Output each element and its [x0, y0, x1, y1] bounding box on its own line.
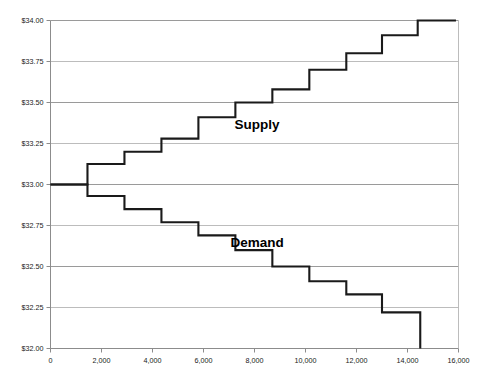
x-tick-label: 8,000 [246, 356, 264, 365]
x-axis-ticks-group: 02,0004,0006,0008,00010,00012,00014,0001… [49, 349, 470, 365]
x-tick-label: 16,000 [448, 356, 470, 365]
x-tick-label: 2,000 [93, 356, 111, 365]
x-tick-label: 10,000 [295, 356, 317, 365]
y-tick-label: $33.50 [22, 98, 44, 107]
y-tick-label: $32.75 [22, 221, 44, 230]
x-tick-label: 14,000 [397, 356, 419, 365]
y-tick-label: $32.25 [22, 303, 44, 312]
gridlines-group [51, 21, 459, 349]
series-label-demand: Demand [230, 235, 283, 250]
supply-demand-chart: $32.00$32.25$32.50$32.75$33.00$33.25$33.… [0, 0, 481, 389]
y-tick-label: $34.00 [22, 16, 44, 25]
x-tick-label: 4,000 [144, 356, 162, 365]
y-tick-label: $33.00 [22, 180, 44, 189]
x-tick-label: 6,000 [195, 356, 213, 365]
y-tick-label: $33.25 [22, 139, 44, 148]
y-tick-label: $33.75 [22, 57, 44, 66]
x-tick-label: 0 [49, 356, 53, 365]
y-tick-label: $32.50 [22, 262, 44, 271]
y-tick-label: $32.00 [22, 344, 44, 353]
series-annotations-group: SupplyDemand [230, 117, 283, 250]
y-axis-ticks-group: $32.00$32.25$32.50$32.75$33.00$33.25$33.… [22, 16, 51, 353]
series-label-supply: Supply [235, 117, 280, 132]
x-tick-label: 12,000 [346, 356, 368, 365]
chart-canvas: $32.00$32.25$32.50$32.75$33.00$33.25$33.… [0, 0, 481, 389]
